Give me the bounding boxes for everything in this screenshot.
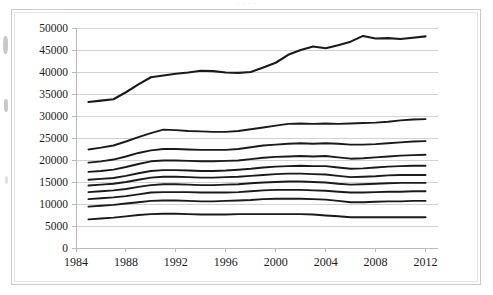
series-line (88, 36, 425, 102)
x-tick-label: 1988 (114, 255, 138, 269)
x-tick-label: 2000 (264, 255, 288, 269)
y-tick-label: 30000 (39, 110, 68, 122)
x-tick-label: 1992 (164, 255, 188, 269)
y-tick-label: 5000 (45, 220, 68, 232)
x-tick-label: 2012 (414, 255, 438, 269)
y-tick-label: 15000 (39, 176, 68, 188)
y-tick-label: 35000 (39, 88, 68, 100)
y-tick-label: 20000 (39, 154, 68, 166)
y-tick-label: 50000 (39, 22, 68, 34)
axis-tickmarks (72, 28, 438, 252)
y-tick-label: 40000 (39, 66, 68, 78)
x-tick-label: 2008 (364, 255, 388, 269)
series-line (88, 190, 425, 199)
series-line (88, 199, 425, 207)
chart-figure: · · · · 05000100001500020000250003000035… (0, 0, 493, 295)
x-axis-tick-labels: 19841988199219962000200420082012 (64, 255, 438, 269)
y-tick-label: 45000 (39, 44, 68, 56)
x-tick-label: 2004 (314, 255, 338, 269)
y-tick-label: 10000 (39, 198, 68, 210)
y-axis-tick-labels: 0500010000150002000025000300003500040000… (39, 22, 68, 254)
series-line (88, 166, 425, 180)
series-lines (88, 36, 425, 219)
x-tick-label: 1996 (214, 255, 238, 269)
y-tick-label: 0 (62, 242, 68, 254)
y-tick-label: 25000 (39, 132, 68, 144)
plot-area: 0500010000150002000025000300003500040000… (0, 0, 493, 295)
x-tick-label: 1984 (64, 255, 88, 269)
series-line (88, 155, 425, 172)
series-line (88, 214, 425, 220)
